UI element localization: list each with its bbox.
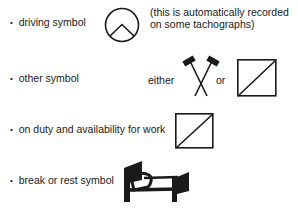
other-symbol-text: other symbol <box>19 72 79 84</box>
break-rest-label: break or rest symbol <box>10 174 114 186</box>
crossed-hammers-icon <box>183 55 219 97</box>
driving-note-line2: on some tachographs) <box>150 18 289 30</box>
bed-icon <box>122 160 192 202</box>
driving-note: (this is automatically recorded on some … <box>150 6 289 30</box>
break-rest-text: break or rest symbol <box>19 174 114 186</box>
driving-symbol-label: driving symbol <box>10 16 86 28</box>
either-text: either <box>148 74 174 86</box>
square-diagonal-icon <box>175 113 214 149</box>
on-duty-label: on duty and availability for work <box>10 123 165 135</box>
driving-note-line1: (this is automatically recorded <box>150 6 289 18</box>
driving-circle-icon <box>104 7 140 43</box>
other-symbol-label: other symbol <box>10 72 79 84</box>
on-duty-text: on duty and availability for work <box>19 123 166 135</box>
square-diagonal-icon <box>237 59 277 97</box>
driving-symbol-text: driving symbol <box>19 16 86 28</box>
or-text: or <box>216 74 225 86</box>
